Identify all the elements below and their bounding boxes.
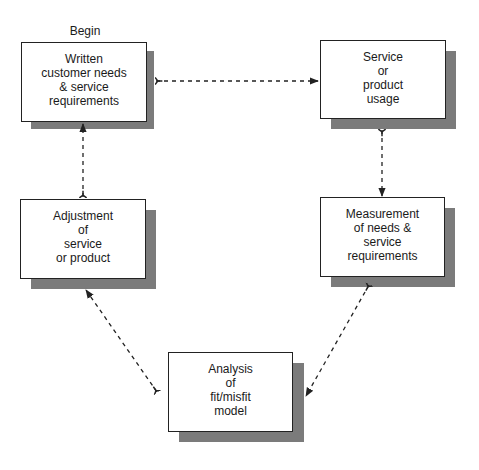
node-written-needs: Written customer needs & service require… (21, 42, 147, 122)
arrow-analysis-to-adjustment (86, 290, 157, 392)
node-usage: Service or product usage (320, 40, 446, 119)
node-label: Written customer needs & service require… (41, 43, 126, 108)
node-adjustment: Adjustment of service or product (20, 199, 146, 279)
begin-label: Begin (54, 24, 116, 38)
node-label: Measurement of needs & service requireme… (346, 198, 419, 263)
node-label: Analysis of fit/misfit model (208, 353, 253, 418)
node-label: Service or product usage (363, 41, 403, 106)
node-label: Adjustment of service or product (53, 200, 113, 265)
cycle-diagram: Begin Written customer needs & service r… (0, 0, 479, 470)
node-analysis: Analysis of fit/misfit model (168, 352, 293, 432)
node-measurement: Measurement of needs & service requireme… (320, 197, 445, 277)
arrow-measurement-to-analysis (306, 285, 369, 396)
